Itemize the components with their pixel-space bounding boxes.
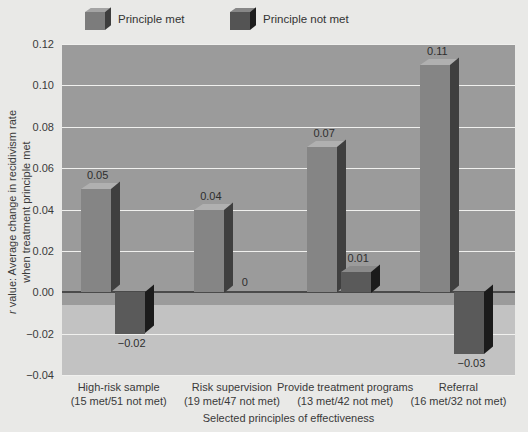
x-axis-tick-labels: High-risk sample(15 met/51 not met)Risk …	[62, 380, 515, 414]
bar-side-face	[111, 181, 120, 292]
bar-principle-not-met	[454, 292, 484, 354]
bar-side-face	[145, 285, 154, 334]
y-axis-title-line-1: r value: Average change in recidivism ra…	[6, 110, 18, 314]
bar-side-face	[484, 285, 493, 355]
legend-item-principle-met: Principle met	[85, 6, 184, 32]
x-axis-category-counts: (13 met/42 not met)	[297, 395, 393, 407]
bar-principle-met	[194, 210, 224, 293]
bar-front-face	[454, 292, 484, 354]
bar-value-label: −0.03	[449, 357, 493, 369]
x-axis-category-name: High-risk sample	[78, 381, 160, 393]
x-axis-category-counts: (15 met/51 not met)	[71, 395, 167, 407]
bar-principle-met	[307, 147, 337, 292]
y-axis-title-line-2: when treatment principle met	[20, 141, 32, 282]
x-axis-title: Selected principles of effectiveness	[62, 412, 515, 424]
bar-value-label: 0.04	[189, 190, 233, 202]
gridline	[62, 334, 515, 335]
bar-front-face	[81, 189, 111, 292]
x-axis-category-name: Risk supervision	[192, 381, 272, 393]
bar-front-face	[420, 65, 450, 293]
x-axis-tick-label: Referral(16 met/32 not met)	[388, 380, 528, 408]
bar-front-face	[115, 292, 145, 333]
bar-value-label: 0.01	[336, 252, 380, 264]
legend-label-principle-met: Principle met	[118, 13, 184, 25]
y-axis-tick-label: 0.04	[33, 204, 54, 216]
legend-item-principle-not-met: Principle not met	[230, 6, 349, 32]
legend-swatch-principle-met-icon	[85, 8, 111, 30]
bar-principle-met	[420, 65, 450, 293]
bar-value-label: 0.07	[302, 127, 346, 139]
bar-principle-not-met	[115, 292, 145, 333]
bar-front-face	[307, 147, 337, 292]
chart-legend: Principle met Principle not met	[0, 6, 528, 34]
bar-front-face	[341, 272, 371, 293]
x-axis-category-counts: (16 met/32 not met)	[410, 395, 506, 407]
bar-side-face	[450, 57, 459, 292]
legend-label-principle-not-met: Principle not met	[263, 13, 349, 25]
x-axis-category-name: Referral	[439, 381, 478, 393]
bar-value-label: 0.11	[415, 45, 459, 57]
y-axis-title: r value: Average change in recidivism ra…	[5, 97, 33, 327]
gridline	[62, 375, 515, 376]
bar-value-label: 0.05	[76, 169, 120, 181]
y-axis-tick-label: 0.00	[33, 286, 54, 298]
bar-principle-met	[81, 189, 111, 292]
y-axis-tick-label: 0.08	[33, 121, 54, 133]
y-axis-tick-label: 0.02	[33, 245, 54, 257]
y-axis-tick-label: 0.10	[33, 79, 54, 91]
y-axis-tick-label: 0.12	[33, 38, 54, 50]
y-axis-tick-label: −0.02	[26, 328, 54, 340]
bar-value-label: −0.02	[110, 337, 154, 349]
x-axis-category-counts: (19 met/47 not met)	[184, 395, 280, 407]
legend-swatch-principle-not-met-icon	[230, 8, 256, 30]
bar-principle-not-met	[341, 272, 371, 293]
bar-front-face	[194, 210, 224, 293]
y-axis-tick-label: 0.06	[33, 162, 54, 174]
bar-value-label: 0	[223, 276, 267, 288]
plot-area: 0.050.040.070.11−0.0200.01−0.03	[62, 44, 515, 375]
